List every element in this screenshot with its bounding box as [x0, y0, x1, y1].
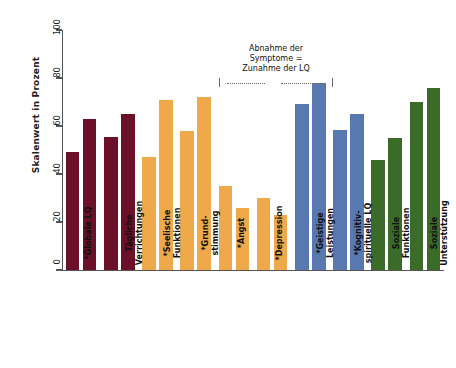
- x-axis-label: *Globale LQ: [84, 190, 94, 276]
- annotation-bracket: [219, 78, 333, 88]
- bar: [66, 152, 80, 270]
- bar: [333, 130, 347, 270]
- y-axis-title: Skalenwert in Prozent: [31, 35, 41, 195]
- x-axis-label: *Angst: [237, 190, 247, 276]
- x-axis-label: Soziale Unterstützung: [430, 190, 449, 276]
- x-axis-label: Soziale Funktionen: [392, 190, 411, 276]
- annotation-line: Zunahme der LQ: [214, 64, 338, 74]
- annotation-line: Abnahme der: [214, 44, 338, 54]
- bar: [104, 137, 118, 270]
- bar: [410, 102, 424, 270]
- bar: [371, 160, 385, 270]
- annotation-line: Symptome =: [214, 54, 338, 64]
- bar: [295, 104, 309, 270]
- bar: [180, 131, 194, 270]
- bar: [219, 186, 233, 270]
- x-axis-label: Tägliche Verrichtungen: [125, 190, 144, 276]
- x-axis-label: *Depression: [275, 190, 285, 276]
- x-axis-label: *Seelische Funktionen: [163, 190, 182, 276]
- bar-chart: Skalenwert in Prozent 020406080100 *Glob…: [0, 0, 456, 368]
- x-axis-label: *Kognitiv- spirituelle LQ: [354, 190, 373, 276]
- bar: [142, 157, 156, 270]
- x-axis-label: *Grund- stimmung: [201, 190, 220, 276]
- annotation-text: Abnahme derSymptome =Zunahme der LQ: [214, 44, 338, 74]
- x-axis-label: *Geistige Leistungen: [316, 190, 335, 276]
- bar: [257, 198, 271, 270]
